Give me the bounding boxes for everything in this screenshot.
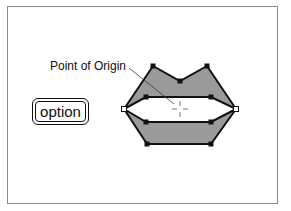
option-key-icon: option [32,98,89,125]
option-key-label: option [35,101,86,122]
origin-crosshair-icon [172,101,188,117]
selected-handle-right [234,107,239,112]
selected-handle-left [122,107,127,112]
point-of-origin-label: Point of Origin [50,59,126,73]
